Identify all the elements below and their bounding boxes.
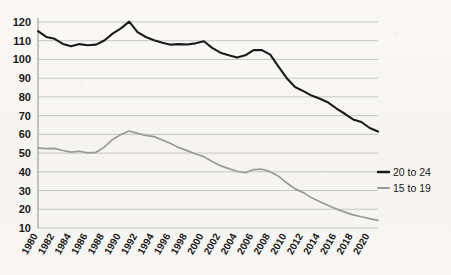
y-axis-tick-label: 90 xyxy=(19,72,31,84)
series-line-15-to-19 xyxy=(38,131,378,220)
line-chart: 1020304050607080901001101201980198219841… xyxy=(0,0,451,275)
y-axis-tick-label: 40 xyxy=(19,166,31,178)
y-axis-tick-label: 100 xyxy=(13,53,31,65)
legend-label-20-to-24[interactable]: 20 to 24 xyxy=(393,166,431,178)
y-axis-tick-label: 80 xyxy=(19,91,31,103)
y-axis-tick-label: 50 xyxy=(19,147,31,159)
y-axis-tick-label: 70 xyxy=(19,110,31,122)
y-axis-tick-label: 20 xyxy=(19,203,31,215)
y-axis-tick-label: 60 xyxy=(19,128,31,140)
series-line-20-to-24 xyxy=(38,22,378,132)
y-axis-tick-label: 30 xyxy=(19,185,31,197)
chart-canvas: 1020304050607080901001101201980198219841… xyxy=(0,0,451,275)
x-axis-tick-label: 2020 xyxy=(351,231,372,256)
y-axis-tick-label: 110 xyxy=(13,35,31,47)
legend-label-15-to-19[interactable]: 15 to 19 xyxy=(393,182,431,194)
y-axis-tick-label: 120 xyxy=(13,16,31,28)
